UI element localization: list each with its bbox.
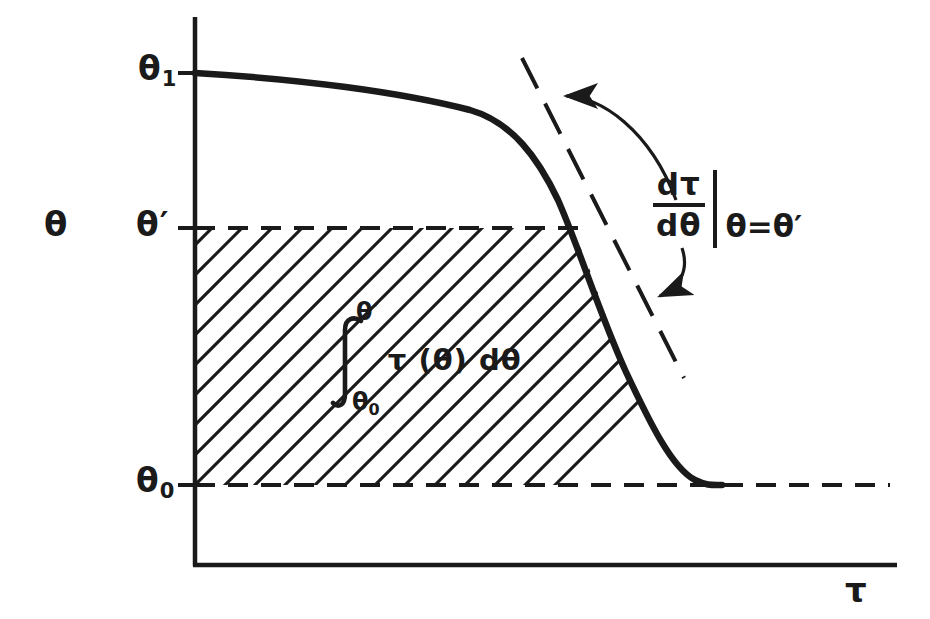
- integral-limits: θ′ θ0: [330, 300, 380, 418]
- derivative-fraction: dτ dθ: [653, 168, 705, 242]
- tick-label-theta-1: θ1: [138, 52, 176, 90]
- theta-tau-curve: [195, 73, 722, 485]
- x-axis-label: τ: [845, 573, 867, 607]
- fraction-denominator: dθ: [653, 209, 705, 242]
- theta-symbol: θ: [136, 461, 159, 500]
- lower-annotation-arrow: [660, 248, 685, 296]
- theta-symbol: θ: [138, 49, 161, 88]
- integral-sign-icon: [330, 314, 372, 410]
- theta-0-subscript: 0: [160, 479, 175, 503]
- tick-label-theta-0: θ0: [136, 464, 174, 502]
- derivative-annotation: dτ dθ θ=θ′: [653, 168, 802, 248]
- integral-integrand: τ (θ) dθ: [388, 343, 522, 377]
- fraction-numerator: dτ: [654, 168, 704, 201]
- tick-label-theta-prime: θ′: [136, 208, 168, 241]
- prime-mark: ′: [160, 205, 169, 244]
- prime-mark: ′: [374, 298, 380, 326]
- theta-symbol: θ: [136, 205, 159, 244]
- integral-annotation: θ′ θ0 τ (θ) dθ: [330, 300, 522, 418]
- y-axis-label: θ: [44, 207, 67, 241]
- figure-canvas: θ τ θ1 θ′ θ0 θ′ θ0 τ (θ) dθ dτ dθ: [0, 0, 930, 619]
- evaluation-condition: θ=θ′: [726, 208, 803, 244]
- evaluation-bar: [713, 170, 717, 248]
- theta-1-subscript: 1: [162, 67, 177, 91]
